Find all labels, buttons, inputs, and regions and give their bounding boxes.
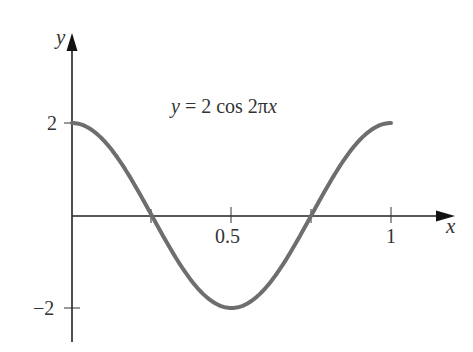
x-axis-label: x [445, 214, 456, 238]
y-axis-arrow-icon [67, 33, 78, 51]
y-axis-label: y [54, 25, 66, 49]
cosine-graph: y x 2 −2 0.5 1 y = 2 cos 2πx [0, 0, 473, 352]
x-tick-label-0.5: 0.5 [215, 225, 240, 247]
x-tick-label-1: 1 [386, 225, 396, 247]
y-tick-label-neg2: −2 [33, 297, 54, 319]
equation-annotation: y = 2 cos 2πx [169, 95, 277, 118]
y-tick-label-2: 2 [47, 112, 57, 134]
equation-lhs: y [169, 95, 180, 118]
equation-rhs: = 2 cos 2π [180, 95, 268, 117]
equation-var: x [267, 95, 277, 117]
